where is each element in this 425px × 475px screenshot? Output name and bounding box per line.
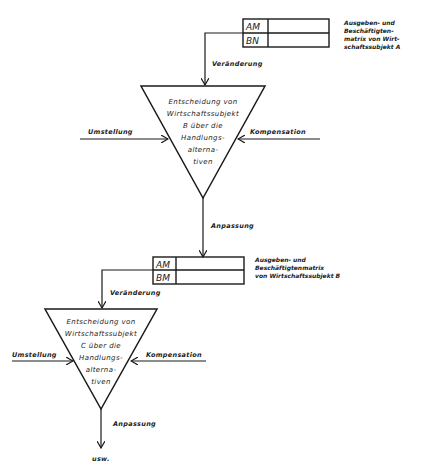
svg-text:Handlungs-: Handlungs-	[79, 354, 123, 362]
label-veraenderung-c: Veränderung	[110, 289, 161, 297]
matrix-b-row1: AM	[155, 260, 170, 270]
svg-text:Entscheidung von: Entscheidung von	[66, 318, 135, 326]
decision-text-b: Entscheidung von Wirtschaftssubjekt B üb…	[167, 98, 239, 166]
svg-text:Beschäftigten-: Beschäftigten-	[344, 27, 394, 35]
label-umstellung-c: Umstellung	[12, 351, 57, 359]
svg-text:Wirtschaftssubjekt: Wirtschaftssubjekt	[65, 330, 137, 338]
label-umstellung-b: Umstellung	[88, 128, 133, 136]
svg-text:Beschäftigtenmatrix: Beschäftigtenmatrix	[255, 264, 325, 272]
label-anpassung-b: Anpassung	[210, 222, 254, 230]
label-anpassung-c: Anpassung	[112, 420, 156, 428]
matrix-a-row2: BN	[246, 36, 259, 46]
label-usw: usw.	[92, 455, 110, 463]
matrix-a: AM BN	[243, 19, 329, 47]
svg-text:Entscheidung von: Entscheidung von	[168, 98, 237, 106]
matrix-a-row1: AM	[245, 22, 260, 32]
svg-text:Handlungs-: Handlungs-	[181, 134, 225, 142]
svg-text:von Wirtschaftssubjekt B: von Wirtschaftssubjekt B	[255, 272, 341, 280]
decision-text-c: Entscheidung von Wirtschaftssubjekt C üb…	[65, 318, 137, 386]
label-veraenderung-b: Veränderung	[212, 60, 263, 68]
flow-diagram: AM BN Ausgeben- und Beschäftigten- matri…	[0, 0, 425, 475]
svg-text:alterna-: alterna-	[188, 146, 219, 154]
arrow-veraenderung-b	[205, 33, 243, 85]
matrix-b-caption: Ausgeben- und Beschäftigtenmatrix von Wi…	[254, 256, 341, 280]
svg-text:Ausgeben- und: Ausgeben- und	[254, 256, 307, 264]
svg-text:tiven: tiven	[91, 378, 111, 386]
svg-text:matrix von Wirt-: matrix von Wirt-	[344, 35, 400, 42]
svg-text:tiven: tiven	[193, 158, 213, 166]
svg-text:alterna-: alterna-	[86, 366, 117, 374]
svg-text:Wirtschaftssubjekt: Wirtschaftssubjekt	[167, 110, 239, 118]
label-kompensation-b: Kompensation	[250, 128, 306, 136]
svg-text:C über die: C über die	[81, 342, 121, 350]
label-kompensation-c: Kompensation	[146, 351, 202, 359]
svg-text:Ausgeben- und: Ausgeben- und	[343, 19, 396, 27]
matrix-a-caption: Ausgeben- und Beschäftigten- matrix von …	[343, 19, 401, 51]
svg-text:schaftssubjekt A: schaftssubjekt A	[344, 43, 401, 51]
matrix-b-row2: BM	[156, 273, 170, 283]
matrix-b: AM BM	[153, 257, 244, 284]
svg-text:B über die: B über die	[183, 122, 223, 130]
